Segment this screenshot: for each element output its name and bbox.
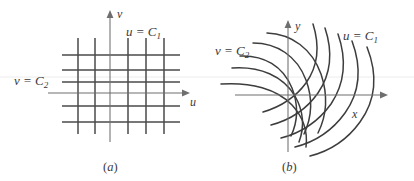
panel-b-v-equals-c2-sub: 2: [245, 50, 250, 60]
panel-a-u-equals-c1-sub: 1: [156, 31, 161, 41]
curve-u-const: [295, 41, 358, 147]
x-axis-arrowhead: [380, 92, 388, 99]
panel-b-xy-plane: y x u = C1 v = C2 (b): [207, 0, 414, 181]
panel-b-u-equals-c1-sub: 1: [373, 35, 378, 45]
curve-u-const: [263, 24, 317, 112]
panel-a-v-equals-c2-label: v = C2: [14, 73, 49, 90]
figure-container: v u u = C1 v = C2 (a): [0, 0, 414, 181]
panel-a-vertical-gridlines: [78, 38, 164, 134]
panel-a-v-equals-c2-base: v = C: [14, 73, 44, 88]
panel-b-caption-close: ): [292, 160, 296, 174]
panel-a-caption-close: ): [113, 160, 117, 174]
panel-a-uv-plane: v u u = C1 v = C2 (a): [0, 0, 207, 181]
panel-a-u-axis-label: u: [190, 95, 196, 109]
v-axis-arrowhead: [107, 10, 114, 18]
panel-b-u-equals-c1-label: u = C1: [343, 28, 378, 45]
panel-a-u-equals-c1-label: u = C1: [126, 24, 161, 41]
panel-a-caption: (a): [103, 160, 118, 174]
panel-b-u-equals-c1-base: u = C: [343, 28, 374, 43]
panel-b-y-axis-label: y: [294, 19, 301, 33]
curve-u-const: [310, 47, 374, 156]
panel-b-x-axis: [235, 92, 388, 99]
panel-a-v-axis-label: v: [117, 7, 123, 21]
panel-b-caption: (b): [282, 160, 297, 174]
panel-b-x-axis-label: x: [351, 107, 358, 121]
u-axis-arrowhead: [182, 90, 190, 97]
panel-b-u-curves: [263, 24, 374, 156]
panel-b-v-equals-c2-label: v = C2: [215, 43, 250, 60]
panel-b-v-equals-c2-base: v = C: [215, 43, 245, 58]
panel-a-u-axis: [48, 90, 190, 97]
y-axis-arrowhead: [285, 20, 292, 28]
panel-a-u-equals-c1-base: u = C: [126, 24, 157, 39]
panel-a-horizontal-gridlines: [62, 55, 180, 122]
panel-a-v-equals-c2-sub: 2: [44, 80, 49, 90]
